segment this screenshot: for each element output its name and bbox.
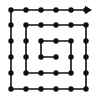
spiral-figure-canvas [0,0,100,100]
spiral-diagram [0,0,100,100]
spiral-path-layer [11,6,92,89]
arrowhead-icon [85,6,92,14]
spiral-polyline [11,10,86,89]
grid-dot-layer [8,7,88,91]
